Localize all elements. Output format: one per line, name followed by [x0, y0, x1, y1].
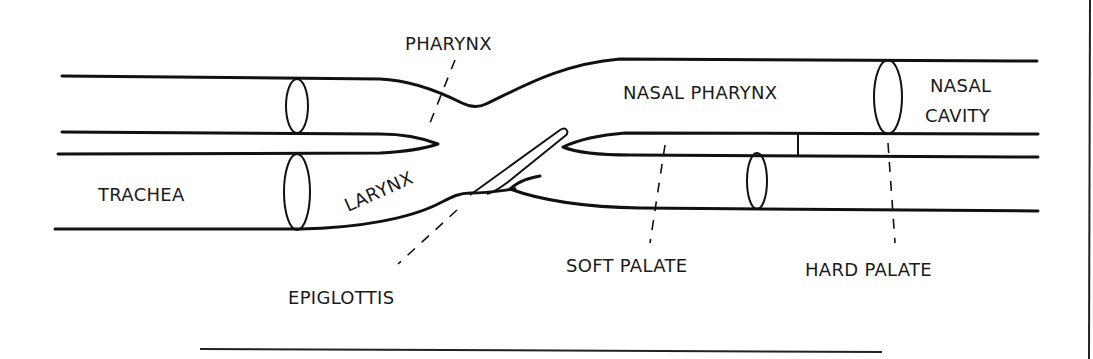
frame-border-right: [1089, 0, 1090, 359]
label-soft-palate: SOFT PALATE: [566, 255, 687, 276]
upper-passage-top-wall: [62, 59, 1037, 107]
label-hard-palate: HARD PALATE: [805, 259, 932, 280]
airway-diagram: PHARYNX NASAL PHARYNX NASAL CAVITY TRACH…: [0, 0, 1093, 359]
bottom-rule: [200, 349, 882, 352]
cross-section-trachea-lower: [284, 154, 310, 230]
label-nasal-pharynx: NASAL PHARYNX: [623, 82, 777, 103]
cross-section-oral-passage: [747, 153, 767, 209]
cross-section-nasal-cavity: [874, 60, 902, 134]
cross-section-trachea-upper: [286, 79, 308, 133]
label-nasal-cavity-line2: CAVITY: [925, 105, 991, 126]
upper-left-inner-wall: [58, 132, 438, 154]
hard-palate-leader-line: [888, 143, 895, 243]
label-pharynx: PHARYNX: [405, 33, 492, 54]
label-epiglottis: EPIGLOTTIS: [288, 287, 394, 308]
epiglottis-flap: [470, 129, 567, 195]
label-nasal-cavity-line1: NASAL: [930, 75, 991, 96]
lower-right-top-wall: [510, 189, 1038, 211]
nasal-floor-upper-wall: [563, 133, 1038, 157]
soft-palate-leader-line: [650, 145, 665, 243]
epiglottis-leader-line: [398, 210, 457, 264]
label-larynx: LARYNX: [341, 167, 416, 216]
label-trachea: TRACHEA: [97, 184, 185, 205]
